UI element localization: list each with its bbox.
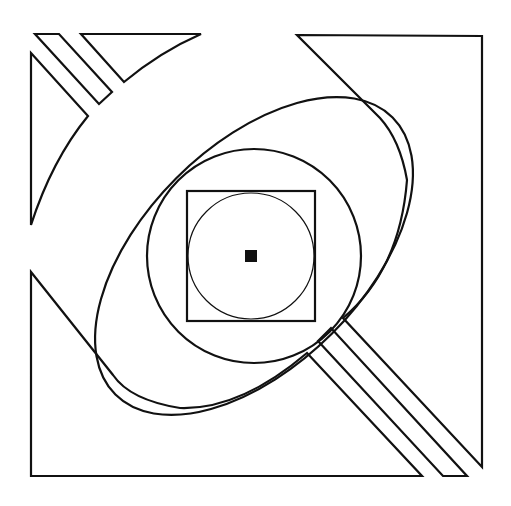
geometric-figure [0, 0, 511, 506]
bottom-left-corner-shape [31, 272, 422, 476]
top-right-corner-shape [297, 35, 482, 467]
center-dot [245, 250, 257, 262]
top-left-triangle-left [31, 53, 88, 225]
bottom-right-diagonal-strip [318, 328, 467, 476]
top-left-triangle-top [81, 34, 201, 82]
